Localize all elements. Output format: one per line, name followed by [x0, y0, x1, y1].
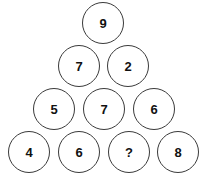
pyramid-node-r2c2: 2: [107, 45, 149, 87]
pyramid-node-r3c1: 5: [33, 88, 75, 130]
pyramid-row-4: 46?8: [0, 131, 206, 173]
pyramid-node-label: 4: [25, 146, 32, 159]
pyramid-node-label: 6: [150, 103, 157, 116]
pyramid-row-1: 9: [0, 2, 206, 44]
pyramid-row-3: 576: [0, 88, 206, 130]
pyramid-node-r4c1: 4: [8, 131, 50, 173]
pyramid-node-label: 7: [100, 103, 107, 116]
pyramid-node-label: 2: [124, 60, 131, 73]
unknown-marker-label: ?: [125, 146, 133, 159]
pyramid-node-r2c1: 7: [58, 45, 100, 87]
pyramid-node-r4c2: 6: [58, 131, 100, 173]
pyramid-node-label: 6: [75, 146, 82, 159]
pyramid-node-r3c3: 6: [133, 88, 175, 130]
pyramid-node-r3c2: 7: [83, 88, 125, 130]
pyramid-node-label: 7: [75, 60, 82, 73]
pyramid-node-unknown: ?: [108, 131, 150, 173]
pyramid-node-r4c4: 8: [157, 131, 199, 173]
pyramid-node-r1c1: 9: [82, 2, 124, 44]
pyramid-node-label: 8: [174, 146, 181, 159]
pyramid-node-label: 5: [50, 103, 57, 116]
pyramid-node-label: 9: [99, 17, 106, 30]
number-pyramid-puzzle: 97257646?8: [0, 0, 206, 177]
pyramid-row-2: 72: [0, 45, 206, 87]
